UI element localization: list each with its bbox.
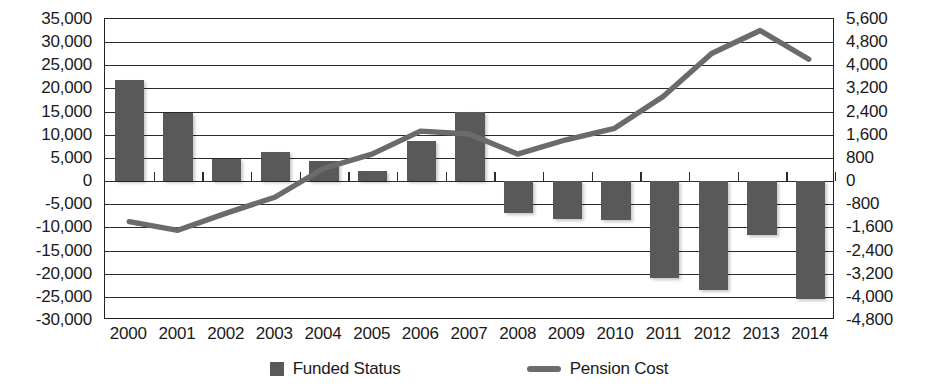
x-axis-label: 2001 <box>153 324 202 344</box>
x-axis-tick <box>835 172 836 181</box>
x-axis-label: 2002 <box>201 324 250 344</box>
legend-item-pension-cost: Pension Cost <box>527 360 669 378</box>
x-axis-labels: 2000200120022003200420052006200720082009… <box>104 324 834 348</box>
left-axis-tick: 35,000 <box>41 10 92 27</box>
square-swatch-icon <box>270 362 284 376</box>
line-swatch-icon <box>527 366 561 372</box>
left-axis-tick: 0 <box>83 172 92 189</box>
right-axis-tick: -800 <box>846 195 879 212</box>
right-axis-tick: 3,200 <box>846 79 888 96</box>
x-axis-label: 2008 <box>493 324 542 344</box>
x-axis-label: 2010 <box>591 324 640 344</box>
left-axis-tick: -20,000 <box>36 265 92 282</box>
legend-spacer <box>401 369 527 370</box>
right-axis-tick: -4,000 <box>846 288 893 305</box>
x-axis-label: 2013 <box>737 324 786 344</box>
left-axis-tick: 15,000 <box>41 103 92 120</box>
x-axis-label: 2007 <box>445 324 494 344</box>
right-axis-tick: 2,400 <box>846 103 888 120</box>
left-axis-tick: 30,000 <box>41 33 92 50</box>
x-axis-label: 2014 <box>785 324 834 344</box>
left-axis-tick: -10,000 <box>36 218 92 235</box>
x-axis-label: 2009 <box>542 324 591 344</box>
x-axis-label: 2011 <box>639 324 688 344</box>
right-axis-tick: 4,800 <box>846 33 888 50</box>
right-axis-tick: -1,600 <box>846 218 893 235</box>
x-axis-label: 2003 <box>250 324 299 344</box>
line-series-pension-cost <box>105 19 833 318</box>
left-axis-tick: 10,000 <box>41 126 92 143</box>
x-axis-label: 2006 <box>396 324 445 344</box>
x-axis-label: 2005 <box>347 324 396 344</box>
legend-item-funded-status: Funded Status <box>270 360 401 378</box>
left-axis-tick: -15,000 <box>36 242 92 259</box>
plot-area <box>104 18 834 319</box>
left-axis-tick: 5,000 <box>50 149 92 166</box>
left-axis-tick: 25,000 <box>41 56 92 73</box>
left-axis-tick: 20,000 <box>41 79 92 96</box>
right-axis-tick: 1,600 <box>846 126 888 143</box>
x-axis-label: 2000 <box>104 324 153 344</box>
x-axis-label: 2012 <box>688 324 737 344</box>
right-axis-tick: 0 <box>846 172 855 189</box>
chart-legend: Funded Status Pension Cost <box>0 356 938 382</box>
pension-cost-polyline <box>129 31 809 231</box>
left-axis-tick: -5,000 <box>45 195 92 212</box>
right-axis-tick: 800 <box>846 149 874 166</box>
left-axis-tick: -30,000 <box>36 311 92 328</box>
left-axis-tick: -25,000 <box>36 288 92 305</box>
legend-label-pension-cost: Pension Cost <box>570 360 669 378</box>
right-axis-tick: 5,600 <box>846 10 888 27</box>
right-axis-tick: -4,800 <box>846 311 893 328</box>
legend-label-funded-status: Funded Status <box>293 360 401 378</box>
x-axis-label: 2004 <box>299 324 348 344</box>
chart-container: 35,00030,00025,00020,00015,00010,0005,00… <box>0 0 938 392</box>
right-axis-tick: 4,000 <box>846 56 888 73</box>
right-axis-tick: -3,200 <box>846 265 893 282</box>
right-axis-tick: -2,400 <box>846 242 893 259</box>
